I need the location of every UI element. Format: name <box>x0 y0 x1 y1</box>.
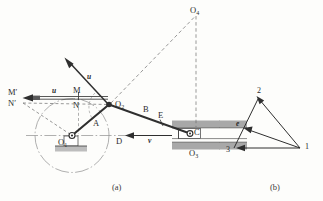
vector-u-horizontal-head <box>23 94 34 101</box>
vector-v-head <box>125 132 134 139</box>
velocity-vertex-label-2: 2 <box>257 87 261 95</box>
vector-u-diagonal-head <box>65 58 74 69</box>
line-O4-to-O2 <box>110 18 194 105</box>
joint-label-O2: O2 <box>115 100 124 109</box>
vector-label-u-diagonal: u <box>87 73 91 81</box>
vector-label-v-slider: v <box>148 137 151 145</box>
joint-label-O4: O4 <box>190 6 199 15</box>
joint-label-O1: O1 <box>58 138 67 147</box>
guide-band-upper-right <box>219 121 247 128</box>
caption-a: (a) <box>112 183 121 192</box>
joint-label-O3: O3 <box>189 149 198 158</box>
joint-label-C: C <box>194 128 200 137</box>
line-Nprime-to-O2 <box>23 103 109 105</box>
joint-label-N: N <box>73 101 79 110</box>
link-label-B: B <box>143 105 149 114</box>
joint-label-M: M <box>73 86 81 95</box>
joint-label-D: D <box>116 137 122 146</box>
velocity-vertex-label-3: 3 <box>226 146 230 154</box>
vector-u-diagonal-shaft <box>70 63 108 104</box>
joint-label-M-prime: M′ <box>8 88 17 97</box>
velocity-vertex-label-1: 1 <box>305 143 309 151</box>
joint-label-N-prime: N′ <box>8 99 16 108</box>
vector-label-u-horizontal: u <box>52 87 56 95</box>
kinematic-diagram-figure: O1 O2 O3 O4 C D E M N M′ N′ A B u u v 1 … <box>0 0 323 201</box>
diagram-canvas <box>0 0 323 201</box>
pivot-O1-center <box>71 134 73 136</box>
caption-b: (b) <box>270 183 280 192</box>
joint-label-E: E <box>158 111 163 120</box>
link-label-A: A <box>93 119 99 128</box>
pivot-C-center <box>189 133 191 135</box>
velocity-point-label-e: e <box>236 120 239 128</box>
